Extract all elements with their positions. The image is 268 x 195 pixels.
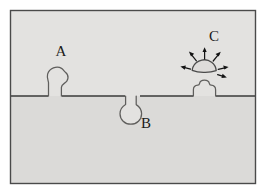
figure-container: A B [0,0,268,195]
surface-bubble-diagram: A B [0,0,268,195]
feature-A-label: A [56,43,67,59]
feature-B-label: B [141,115,151,131]
feature-C-label: C [209,28,219,44]
